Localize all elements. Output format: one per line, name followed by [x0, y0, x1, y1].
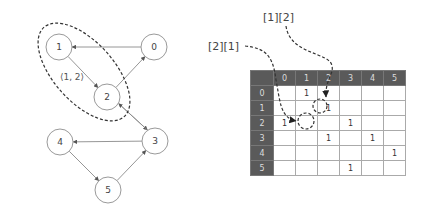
- col-header-3: 3: [340, 71, 362, 86]
- cell-0-5: [384, 86, 406, 101]
- matrix-row: 11: [251, 101, 406, 116]
- cell-2-5: [384, 116, 406, 131]
- node-3: 3: [142, 128, 168, 154]
- cell-3-5: [384, 131, 406, 146]
- svg-text:5: 5: [105, 185, 111, 195]
- cell-4-5: 1: [384, 146, 406, 161]
- cell-0-4: [362, 86, 384, 101]
- adjacency-matrix: 012345 01112113114151: [250, 70, 406, 176]
- row-header-0: 0: [251, 86, 274, 101]
- cell-2-2: [318, 116, 340, 131]
- col-header-0: 0: [274, 71, 296, 86]
- cell-4-4: [362, 146, 384, 161]
- node-5: 5: [95, 177, 121, 203]
- matrix-row: 311: [251, 131, 406, 146]
- cell-3-4: 1: [362, 131, 384, 146]
- col-header-4: 4: [362, 71, 384, 86]
- svg-text:3: 3: [152, 136, 158, 146]
- cell-2-0: 1: [274, 116, 296, 131]
- matrix-corner: [251, 71, 274, 86]
- edge-3-2: [119, 104, 148, 130]
- cell-4-1: [296, 146, 318, 161]
- edge-5-3: [117, 150, 146, 180]
- cell-3-2: 1: [318, 131, 340, 146]
- matrix-row: 51: [251, 161, 406, 176]
- cell-0-3: [340, 86, 362, 101]
- edge-4-5: [69, 151, 99, 181]
- row-header-3: 3: [251, 131, 274, 146]
- cell-0-1: 1: [296, 86, 318, 101]
- svg-text:4: 4: [57, 137, 63, 147]
- cell-4-2: [318, 146, 340, 161]
- cell-5-1: [296, 161, 318, 176]
- svg-text:0: 0: [151, 42, 157, 52]
- cell-2-4: [362, 116, 384, 131]
- node-2: 2: [94, 84, 120, 110]
- node-1: 1: [46, 34, 72, 60]
- cell-5-2: [318, 161, 340, 176]
- col-header-5: 5: [384, 71, 406, 86]
- edge-3-4: [73, 141, 142, 142]
- highlight-label: ⟨1, 2⟩: [60, 72, 84, 82]
- cell-1-1: [296, 101, 318, 116]
- cell-5-0: [274, 161, 296, 176]
- edge-2-0: [116, 56, 145, 87]
- cell-1-0: [274, 101, 296, 116]
- cell-1-2: 1: [318, 101, 340, 116]
- cell-4-0: [274, 146, 296, 161]
- cell-0-0: [274, 86, 296, 101]
- cell-1-4: [362, 101, 384, 116]
- col-header-2: 2: [318, 71, 340, 86]
- cell-3-3: [340, 131, 362, 146]
- matrix-row: 01: [251, 86, 406, 101]
- cell-2-1: [296, 116, 318, 131]
- label-1-2: [1][2]: [263, 11, 294, 24]
- cell-1-5: [384, 101, 406, 116]
- cell-2-3: 1: [340, 116, 362, 131]
- row-header-5: 5: [251, 161, 274, 176]
- row-header-2: 2: [251, 116, 274, 131]
- cell-4-3: [340, 146, 362, 161]
- matrix-row: 41: [251, 146, 406, 161]
- node-4: 4: [47, 129, 73, 155]
- row-header-4: 4: [251, 146, 274, 161]
- cell-1-3: [340, 101, 362, 116]
- svg-text:1: 1: [56, 42, 62, 52]
- cell-3-1: [296, 131, 318, 146]
- cell-5-4: [362, 161, 384, 176]
- svg-text:2: 2: [104, 92, 110, 102]
- matrix-row: 211: [251, 116, 406, 131]
- cell-5-5: [384, 161, 406, 176]
- cell-5-3: 1: [340, 161, 362, 176]
- col-header-1: 1: [296, 71, 318, 86]
- cell-0-2: [318, 86, 340, 101]
- row-header-1: 1: [251, 101, 274, 116]
- label-2-1: [2][1]: [208, 40, 239, 53]
- node-0: 0: [141, 34, 167, 60]
- cell-3-0: [274, 131, 296, 146]
